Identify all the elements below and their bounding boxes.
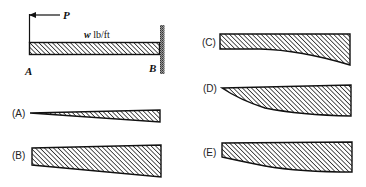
option-d-label: (D): [203, 83, 217, 94]
option-b-label: (B): [12, 150, 25, 161]
option-a-label: (A): [12, 108, 25, 119]
option-a[interactable]: (A): [12, 108, 160, 122]
option-b[interactable]: (B): [12, 145, 161, 177]
option-d-shape: [222, 85, 351, 116]
option-e-label: (E): [203, 147, 216, 158]
force-label: P: [63, 9, 70, 21]
option-a-shape: [30, 110, 160, 122]
beam-diagram: P w lb/ft A B (A) (B) (C) (D) (E): [0, 0, 366, 187]
option-d[interactable]: (D): [203, 83, 351, 116]
support-label-a: A: [24, 65, 32, 77]
load-label: w lb/ft: [84, 29, 110, 40]
option-e-shape: [222, 142, 352, 172]
force-arrow-icon: [29, 12, 60, 18]
option-c-label: (C): [202, 37, 216, 48]
fixed-wall-support: [160, 25, 165, 74]
option-c[interactable]: (C): [202, 34, 350, 65]
option-e[interactable]: (E): [203, 142, 352, 172]
beam-body: [30, 43, 160, 55]
cantilever-beam-figure: P w lb/ft A B: [24, 9, 165, 77]
option-c-shape: [220, 34, 350, 65]
support-label-b: B: [148, 62, 156, 74]
load-label-unit: lb/ft: [91, 29, 110, 40]
option-b-shape: [32, 145, 161, 177]
